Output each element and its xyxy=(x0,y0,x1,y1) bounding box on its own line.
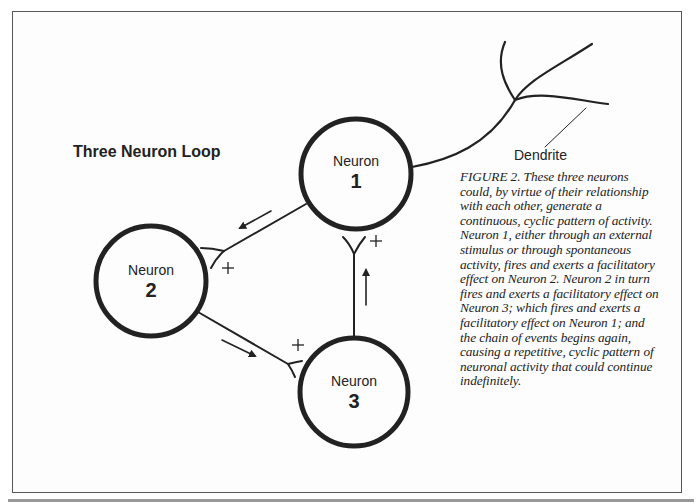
neuron-name: Neuron xyxy=(304,374,404,388)
figure-title: Three Neuron Loop xyxy=(73,143,221,161)
dendrite-label: Dendrite xyxy=(514,147,567,163)
caption-line: the chain of events begins again, xyxy=(460,331,692,346)
neuron-name: Neuron xyxy=(101,263,201,277)
caption-line: could, by virtue of their relationship xyxy=(460,185,692,200)
axon-neuron2-to-neuron3 xyxy=(198,312,302,377)
neuron-number: 2 xyxy=(101,280,201,300)
dendrite-pointer-line xyxy=(545,108,586,147)
neuron-2-label: Neuron 2 xyxy=(101,263,201,300)
neuron-1-label: Neuron 1 xyxy=(306,154,406,191)
axon-neuron1-to-neuron2 xyxy=(201,204,306,268)
plus-icon-neuron2 xyxy=(222,262,234,274)
caption-line: continuous, cyclic pattern of activity. xyxy=(460,214,692,229)
dendrite xyxy=(412,42,608,167)
caption-line: indefinitely. xyxy=(460,374,692,389)
plus-signs xyxy=(222,235,382,351)
plus-icon-neuron3 xyxy=(292,339,304,351)
caption-line: Neuron 1, either through an external xyxy=(460,228,692,243)
plus-icon-neuron1 xyxy=(370,235,382,247)
caption-line: causing a repetitive, cyclic pattern of xyxy=(460,345,692,360)
neuron-name: Neuron xyxy=(306,154,406,168)
caption-line: effect on Neuron 2. Neuron 2 in turn xyxy=(460,272,692,287)
axon-neuron3-to-neuron1 xyxy=(343,237,365,338)
neuron-number: 1 xyxy=(306,171,406,191)
caption-line: fires and exerts a facilitatory effect o… xyxy=(460,287,692,302)
neuron-number: 3 xyxy=(304,391,404,411)
caption-line: FIGURE 2. These three neurons xyxy=(460,170,692,185)
caption-line: facilitatory effect on Neuron 1; and xyxy=(460,316,692,331)
caption-line: with each other, generate a xyxy=(460,199,692,214)
figure-caption: FIGURE 2. These three neurons could, by … xyxy=(460,170,692,389)
caption-line: Neuron 3; which fires and exerts a xyxy=(460,301,692,316)
arrow-to-neuron2-icon xyxy=(240,211,271,228)
caption-line: activity, fires and exerts a facilitator… xyxy=(460,258,692,273)
neuron-3-label: Neuron 3 xyxy=(304,374,404,411)
caption-line: stimulus or through spontaneous xyxy=(460,243,692,258)
caption-line: neuronal activity that could continue xyxy=(460,360,692,375)
